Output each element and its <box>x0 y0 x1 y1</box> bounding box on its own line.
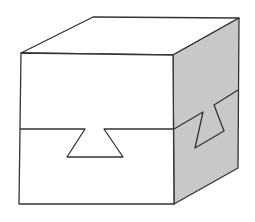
cube-diagram <box>0 0 255 222</box>
